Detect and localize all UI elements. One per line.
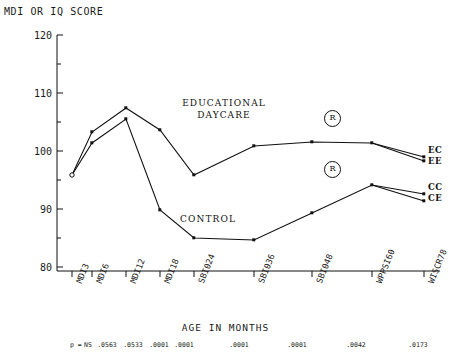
series-label-ec: EC	[428, 145, 442, 155]
series-line-ee	[372, 143, 424, 161]
randomization-marker-lower: R	[324, 161, 341, 178]
plot-area	[0, 0, 451, 363]
group-label-educational-line1: EDUCATIONAL	[168, 98, 280, 108]
pvalue-wiscr78: .0173	[406, 341, 430, 349]
randomization-marker-upper: R	[324, 110, 341, 127]
group-label-control: CONTROL	[170, 214, 246, 224]
x-ticks	[72, 271, 424, 277]
series-label-ee: EE	[428, 156, 442, 166]
series-line-cc	[72, 119, 424, 240]
series-label-ce: CE	[428, 193, 442, 203]
pvalue-sbi024: .0001	[172, 341, 196, 349]
chart-canvas: MDI OR IQ SCORE 120 110 100 90 80	[0, 0, 451, 363]
pvalue-mdi6: .0563	[95, 341, 119, 349]
origin-marker	[70, 173, 74, 177]
pvalue-sbi048: .0001	[285, 341, 309, 349]
x-axis-title: AGE IN MONTHS	[0, 322, 451, 333]
group-label-educational-line2: DAYCARE	[168, 110, 280, 120]
pvalue-mdi12: .0533	[121, 341, 145, 349]
series-label-cc: CC	[428, 182, 443, 192]
y-major-ticks	[57, 35, 63, 267]
pvalue-row: NS .0563 .0533 .0001 .0001 .0001 .0001 .…	[0, 341, 451, 355]
pvalue-wppsi60: .0042	[344, 341, 368, 349]
series-markers-control	[90, 117, 425, 241]
pvalue-sbi036: .0001	[227, 341, 251, 349]
pvalue-mdi18: .0001	[147, 341, 171, 349]
